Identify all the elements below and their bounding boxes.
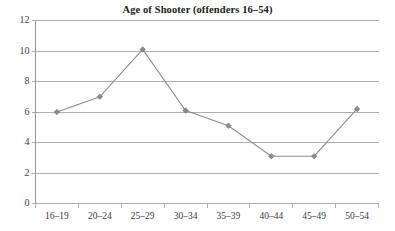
data-point-marker	[54, 109, 60, 115]
x-axis-tick-label: 16–19	[36, 211, 79, 221]
chart-container: Age of Shooter (offenders 16–54) 0246810…	[0, 0, 395, 231]
y-axis-tick-label: 0	[0, 197, 30, 208]
x-axis-tick-marks	[32, 21, 379, 208]
grid-lines	[36, 21, 379, 204]
y-axis-tick-label: 12	[0, 14, 30, 25]
y-axis-tick-label: 10	[0, 45, 30, 56]
x-axis-tick-label: 35–39	[207, 211, 250, 221]
y-axis-tick-label: 8	[0, 75, 30, 86]
y-axis-tick-label: 2	[0, 167, 30, 178]
x-axis-tick-label: 30–34	[164, 211, 207, 221]
x-axis-tick-label: 25–29	[121, 211, 164, 221]
x-axis-tick-label: 50–54	[336, 211, 379, 221]
x-axis-tick-label: 45–49	[293, 211, 336, 221]
x-axis-tick-label: 40–44	[250, 211, 293, 221]
y-axis-tick-label: 6	[0, 106, 30, 117]
series-polyline	[57, 49, 357, 156]
x-axis-tick-label: 20–24	[78, 211, 121, 221]
chart-plot-area	[0, 0, 395, 231]
series-line	[57, 49, 357, 156]
y-axis-tick-label: 4	[0, 136, 30, 147]
